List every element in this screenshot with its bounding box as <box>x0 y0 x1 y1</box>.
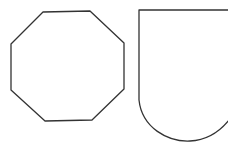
octagon-shape <box>11 11 124 121</box>
shield-shape <box>139 10 228 141</box>
diagram-canvas <box>0 0 228 150</box>
